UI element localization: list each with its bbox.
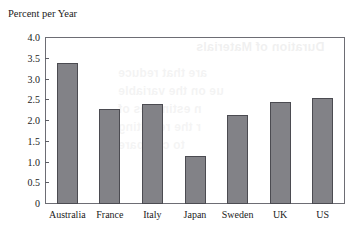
bar-slot [142, 38, 163, 204]
x-axis-tick-label: Australia [46, 209, 89, 221]
x-axis-tick-label: France [89, 209, 132, 221]
bar-france [99, 109, 120, 204]
y-axis-tick-label: 1.5 [0, 137, 40, 147]
bar-chart-figure: Duration of Materials are that reduce ue… [0, 0, 361, 245]
y-axis-title: Percent per Year [8, 8, 77, 20]
x-axis-tick-label: Italy [131, 209, 174, 221]
bar-slot [57, 38, 78, 204]
y-axis-tick-label: 2.0 [0, 116, 40, 126]
x-axis-tick-label: US [301, 209, 344, 221]
y-axis-tick-label: 0 [0, 199, 40, 209]
y-axis-tick-label: 3.5 [0, 54, 40, 64]
y-axis-tick-label: 0.5 [0, 178, 40, 188]
bar-slot [312, 38, 333, 204]
bar-us [312, 98, 333, 204]
y-axis-tick-label: 1.0 [0, 158, 40, 168]
y-axis-tick-label: 4.0 [0, 33, 40, 43]
bar-italy [142, 104, 163, 204]
bar-slot [227, 38, 248, 204]
bar-japan [185, 156, 206, 204]
x-axis-tick-labels: AustraliaFranceItalyJapanSwedenUKUS [46, 209, 344, 229]
bar-australia [57, 63, 78, 204]
bar-slot [99, 38, 120, 204]
x-axis-tick-label: Japan [174, 209, 217, 221]
y-axis-tick-labels: 4.03.53.02.52.01.51.00.50 [0, 30, 40, 211]
bar-sweden [227, 115, 248, 204]
bar-slot [185, 38, 206, 204]
y-axis-tick-label: 2.5 [0, 95, 40, 105]
x-axis-tick-label: UK [259, 209, 302, 221]
bar-uk [270, 102, 291, 205]
bar-slot [270, 38, 291, 204]
x-axis-tick-label: Sweden [216, 209, 259, 221]
y-axis-tick-label: 3.0 [0, 75, 40, 85]
plot-area [46, 38, 344, 204]
